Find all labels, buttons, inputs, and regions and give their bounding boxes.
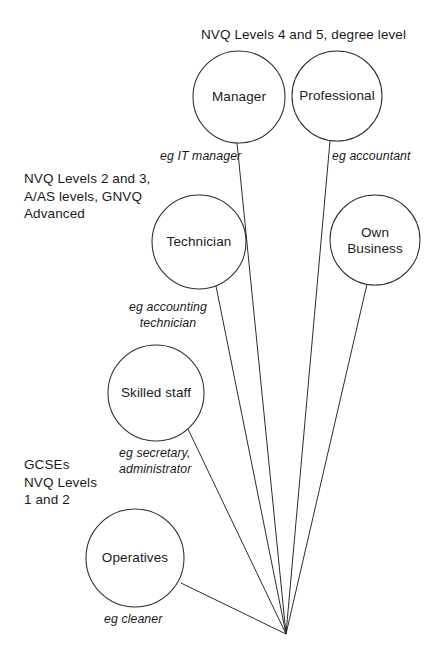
node-label-skilled-staff: Skilled staff: [121, 385, 191, 401]
example-label-cleaner: eg cleaner: [104, 611, 162, 627]
example-label-accounting-technician: eg accounting technician: [129, 299, 207, 331]
career-progression-diagram: Manager Professional Technician Own Busi…: [0, 0, 426, 666]
node-label-manager: Manager: [212, 89, 266, 105]
node-label-own-business: Own Business: [347, 225, 403, 256]
node-label-operatives: Operatives: [102, 550, 168, 566]
connector-skilled-staff-line: [188, 429, 286, 634]
node-label-professional: Professional: [299, 88, 375, 104]
node-label-technician: Technician: [167, 234, 232, 250]
tier-label-intermediate: NVQ Levels 2 and 3, A/AS levels, GNVQ Ad…: [24, 170, 150, 223]
connector-professional-line: [286, 141, 330, 634]
tier-label-foundation: GCSEs NVQ Levels 1 and 2: [24, 456, 97, 509]
connector-operatives-line: [181, 583, 286, 634]
example-label-accountant: eg accountant: [332, 148, 411, 164]
connector-technician-line: [216, 286, 286, 634]
example-label-it-manager: eg IT manager: [160, 148, 241, 164]
connector-own-business-line: [286, 284, 367, 634]
example-label-secretary-administrator: eg secretary, administrator: [119, 445, 191, 477]
tier-label-higher: NVQ Levels 4 and 5, degree level: [201, 26, 406, 44]
connector-manager-line: [237, 143, 286, 634]
